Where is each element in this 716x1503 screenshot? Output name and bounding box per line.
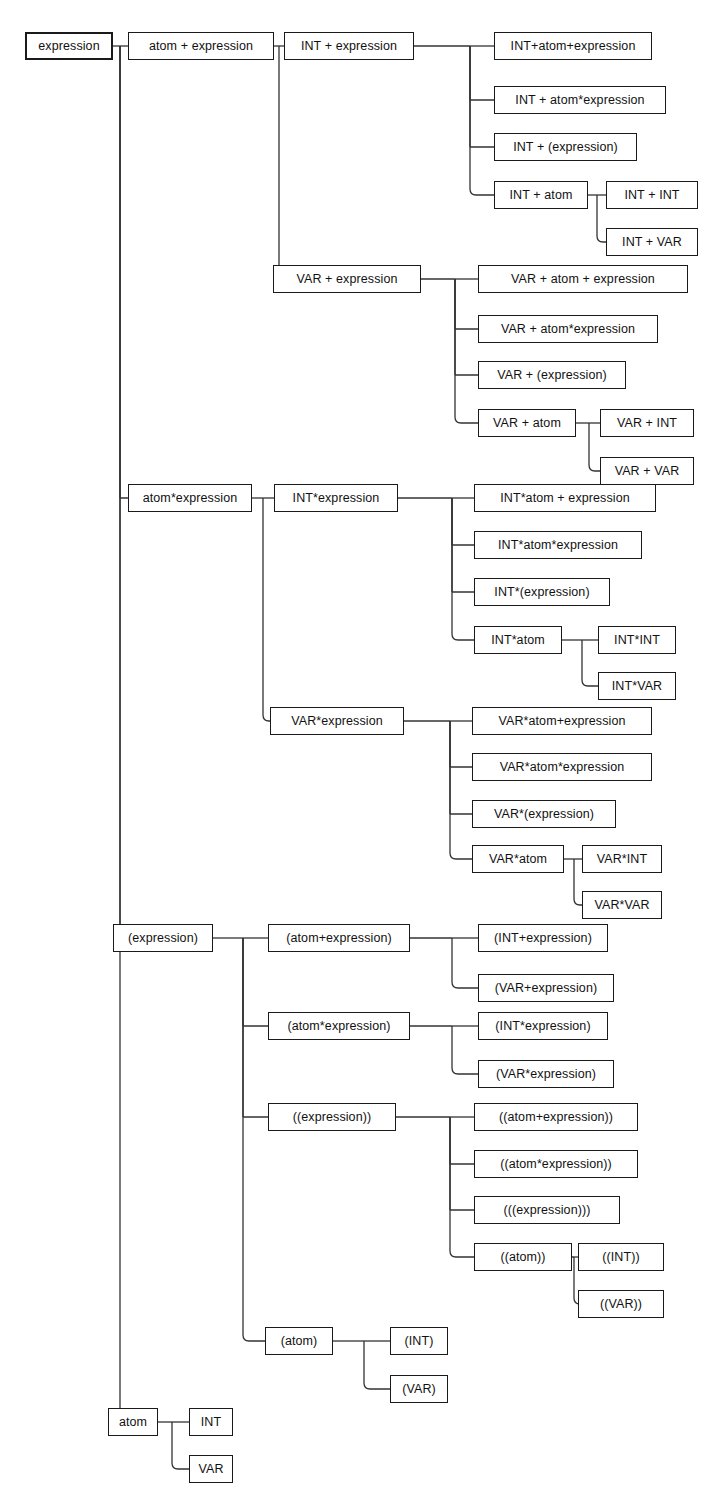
tree-node: (INT*expression) bbox=[478, 1012, 608, 1040]
edge-branch bbox=[589, 423, 600, 471]
edge-branch bbox=[582, 640, 598, 686]
tree-node: (expression) bbox=[113, 924, 213, 952]
tree-node: INT*expression bbox=[274, 484, 398, 512]
tree-node: (INT+expression) bbox=[478, 924, 608, 952]
tree-node: (VAR) bbox=[390, 1375, 448, 1403]
edge-branch bbox=[108, 46, 126, 1422]
tree-node: atom*expression bbox=[128, 484, 252, 512]
tree-node: INT*atom bbox=[474, 626, 562, 654]
tree-node: VAR bbox=[189, 1455, 233, 1483]
edge-branch bbox=[113, 46, 120, 938]
tree-node: ((atom*expression)) bbox=[474, 1150, 638, 1178]
edge-branch bbox=[450, 1117, 474, 1164]
edge-branch bbox=[450, 721, 472, 859]
edge-branch bbox=[263, 498, 270, 721]
tree-node: INT*atom + expression bbox=[474, 484, 656, 512]
derivation-tree-diagram: expressionatom + expressionINT + express… bbox=[0, 0, 716, 1503]
tree-node: VAR + INT bbox=[600, 409, 694, 437]
tree-node: VAR + (expression) bbox=[478, 361, 626, 389]
edge-branch bbox=[455, 279, 478, 423]
tree-node: INT + atom*expression bbox=[494, 86, 666, 114]
tree-node: INT + (expression) bbox=[494, 133, 637, 161]
tree-node-root: expression bbox=[25, 32, 113, 60]
tree-node: INT bbox=[189, 1408, 233, 1436]
tree-node: INT*INT bbox=[598, 626, 676, 654]
edge-branch bbox=[450, 721, 472, 767]
tree-node: ((atom)) bbox=[474, 1243, 572, 1271]
edge-branch bbox=[120, 46, 128, 498]
edge-branch bbox=[574, 859, 582, 905]
edge-branch bbox=[470, 46, 494, 100]
tree-node: (atom*expression) bbox=[268, 1012, 410, 1040]
tree-node: INT + VAR bbox=[606, 228, 698, 256]
tree-node: INT + atom bbox=[494, 181, 588, 209]
edge-branch bbox=[452, 498, 474, 640]
edge-layer bbox=[0, 0, 716, 1503]
edge-branch bbox=[470, 46, 494, 147]
edge-branch bbox=[455, 279, 478, 375]
edge-branch bbox=[452, 938, 478, 988]
tree-node: ((INT)) bbox=[578, 1243, 664, 1271]
tree-node: ((atom+expression)) bbox=[474, 1103, 638, 1131]
tree-node: atom + expression bbox=[128, 32, 274, 60]
edge-branch bbox=[452, 498, 474, 592]
tree-node: VAR*atom+expression bbox=[472, 707, 652, 735]
tree-node: INT + expression bbox=[284, 32, 414, 60]
tree-node: INT*atom*expression bbox=[474, 531, 642, 559]
tree-node: atom bbox=[108, 1408, 158, 1436]
tree-node: VAR + expression bbox=[273, 265, 421, 293]
tree-node: VAR + atom bbox=[478, 409, 576, 437]
edge-branch bbox=[470, 46, 494, 195]
edge-branch bbox=[243, 938, 268, 1117]
tree-node: VAR*atom bbox=[472, 845, 564, 873]
tree-node: VAR + VAR bbox=[600, 457, 694, 485]
tree-node: VAR + atom*expression bbox=[478, 315, 658, 343]
tree-node: VAR*expression bbox=[270, 707, 404, 735]
edge-branch bbox=[243, 938, 268, 1026]
edge-branch bbox=[450, 721, 472, 814]
edge-branch bbox=[172, 1422, 189, 1469]
tree-node: VAR*atom*expression bbox=[472, 753, 652, 781]
tree-node: (((expression))) bbox=[474, 1196, 620, 1224]
tree-node: INT+atom+expression bbox=[494, 32, 652, 60]
tree-node: INT*VAR bbox=[598, 672, 676, 700]
tree-node: ((VAR)) bbox=[578, 1290, 664, 1318]
tree-node: (VAR+expression) bbox=[478, 974, 614, 1002]
edge-branch bbox=[364, 1341, 390, 1389]
edge-branch bbox=[450, 1117, 474, 1210]
tree-node: ((expression)) bbox=[268, 1103, 396, 1131]
tree-node: VAR*VAR bbox=[582, 891, 662, 919]
edge-branch bbox=[450, 1117, 474, 1257]
edge-branch bbox=[273, 46, 285, 279]
edge-branch bbox=[455, 279, 478, 329]
edge-branch bbox=[452, 1026, 478, 1074]
tree-node: VAR*(expression) bbox=[472, 800, 616, 828]
tree-node: (atom) bbox=[265, 1327, 333, 1355]
tree-node: VAR*INT bbox=[582, 845, 662, 873]
tree-node: (atom+expression) bbox=[268, 924, 410, 952]
edge-branch bbox=[452, 498, 474, 545]
tree-node: (VAR*expression) bbox=[478, 1060, 614, 1088]
edge-branch bbox=[243, 938, 265, 1341]
tree-node: (INT) bbox=[390, 1327, 448, 1355]
tree-node: VAR + atom + expression bbox=[478, 265, 688, 293]
tree-node: INT + INT bbox=[606, 181, 698, 209]
tree-node: INT*(expression) bbox=[474, 578, 610, 606]
edge-branch bbox=[597, 195, 606, 242]
